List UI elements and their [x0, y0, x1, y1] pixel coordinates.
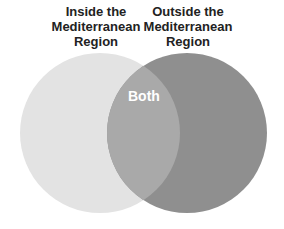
- intersection-label: Both: [128, 88, 160, 104]
- venn-diagram: [0, 0, 284, 229]
